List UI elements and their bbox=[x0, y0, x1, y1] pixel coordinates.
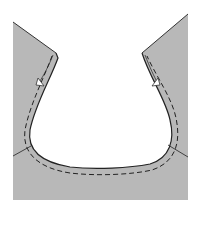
fabric-piece bbox=[13, 14, 188, 230]
neckline-diagram bbox=[0, 0, 197, 230]
